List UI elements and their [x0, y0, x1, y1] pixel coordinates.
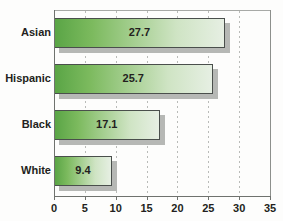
- category-label: White: [21, 164, 51, 176]
- x-tick-mark: [85, 196, 86, 200]
- x-tick-label: 0: [39, 202, 69, 214]
- bar-value-label: 9.4: [71, 164, 95, 176]
- bar-value-label: 17.1: [95, 118, 119, 130]
- x-tick-mark: [177, 196, 178, 200]
- x-tick-label: 35: [255, 202, 283, 214]
- y-axis-line: [54, 10, 55, 197]
- x-tick-mark: [239, 196, 240, 200]
- x-tick-mark: [147, 196, 148, 200]
- x-tick-label: 25: [193, 202, 223, 214]
- category-label: Hispanic: [5, 72, 51, 84]
- x-tick-label: 20: [162, 202, 192, 214]
- gridline: [239, 11, 240, 196]
- category-label: Asian: [21, 26, 51, 38]
- x-tick-mark: [270, 196, 271, 200]
- category-label: Black: [22, 118, 51, 130]
- plot-frame-right: [270, 10, 271, 197]
- bar-value-label: 25.7: [121, 72, 145, 84]
- x-tick-label: 5: [70, 202, 100, 214]
- x-tick-label: 30: [224, 202, 254, 214]
- x-tick-label: 15: [132, 202, 162, 214]
- bar-chart: 27.725.717.19.4 05101520253035 AsianHisp…: [0, 0, 283, 221]
- x-tick-label: 10: [101, 202, 131, 214]
- bar-value-label: 27.7: [127, 26, 151, 38]
- x-tick-mark: [208, 196, 209, 200]
- x-tick-mark: [116, 196, 117, 200]
- x-tick-mark: [54, 196, 55, 200]
